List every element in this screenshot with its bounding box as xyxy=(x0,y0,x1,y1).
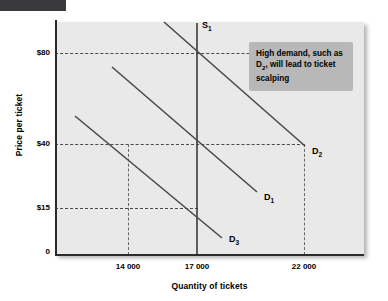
callout-line-3: scalping xyxy=(256,74,289,83)
curve-label-d1-sub: 1 xyxy=(271,197,275,204)
curve-label-s1: S1 xyxy=(202,20,212,32)
curve-label-d3-sub: 3 xyxy=(236,239,240,246)
curve-label-d2-sub: 2 xyxy=(319,151,323,158)
callout-line-2: , will lead to ticket xyxy=(265,60,335,69)
curve-label-d3: D3 xyxy=(229,234,239,246)
y-tick-label-0: 0 xyxy=(4,247,50,256)
callout-d2-label: D2 xyxy=(256,60,265,69)
x-axis-line xyxy=(55,254,364,256)
callout-line-1: High demand, such as xyxy=(256,49,343,58)
curve-label-d1: D1 xyxy=(264,192,274,204)
x-tick-label-17000: 17 000 xyxy=(167,262,227,271)
y-axis-line xyxy=(55,20,57,256)
y-tick-label-40: $40 xyxy=(4,139,50,148)
demand-curve-d3 xyxy=(75,116,222,238)
y-tick-label-80: $80 xyxy=(4,48,50,57)
annotation-callout: High demand, such as D2, will lead to ti… xyxy=(249,42,353,91)
demand-curve-d1 xyxy=(112,67,257,192)
y-tick-label-15: $15 xyxy=(4,203,50,212)
x-tick-label-22000: 22 000 xyxy=(274,262,334,271)
x-axis-title: Quantity of tickets xyxy=(55,281,364,291)
x-tick-label-14000: 14 000 xyxy=(98,262,158,271)
curve-label-s1-sub: 1 xyxy=(208,25,212,32)
y-axis-title: Price per ticket xyxy=(14,70,24,180)
curve-label-d2: D2 xyxy=(312,146,322,158)
supply-demand-chart: $80 $40 $15 0 14 000 17 000 22 000 Price… xyxy=(0,0,388,301)
